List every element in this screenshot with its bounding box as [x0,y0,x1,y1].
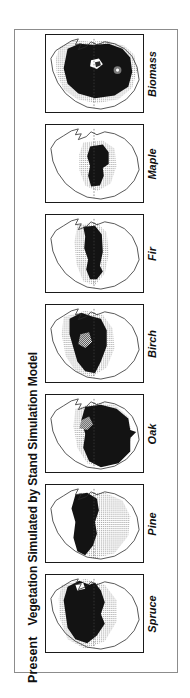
simulation-heading: Vegetation Simulated by Stand Simulation… [26,352,40,625]
figure-title: Present Vegetation Simulated by Stand Si… [22,43,44,683]
panel-label-biomass: Biomass [144,46,160,102]
panel-label-oak: Oak [144,406,160,462]
figure-outer-frame: Present Vegetation Simulated by Stand Si… [14,29,178,673]
panel-row-oak: Oak [45,394,144,473]
map-panel-pine[interactable] [45,484,144,563]
panel-label-birch: Birch [144,316,160,372]
panel-row-pine: Pine [45,484,144,563]
panel-row-spruce: Spruce [45,574,144,653]
panel-row-birch: Birch [45,304,144,383]
map-panel-column: Biomass Maple [45,34,144,670]
map-panel-birch[interactable] [45,304,144,383]
panel-row-fir: Fir [45,214,144,293]
present-heading: Present [26,636,40,683]
figure-container: Present Vegetation Simulated by Stand Si… [0,0,190,698]
panel-row-biomass: Biomass [45,34,144,113]
map-panel-spruce[interactable] [45,574,144,653]
panel-label-pine: Pine [144,496,160,552]
map-panel-oak[interactable] [45,394,144,473]
panel-row-maple: Maple [45,124,144,203]
map-panel-fir[interactable] [45,214,144,293]
panel-label-maple: Maple [144,136,160,192]
panel-label-fir: Fir [144,226,160,282]
panel-label-spruce: Spruce [144,586,160,642]
map-panel-maple[interactable] [45,124,144,203]
map-panel-biomass[interactable] [45,34,144,113]
